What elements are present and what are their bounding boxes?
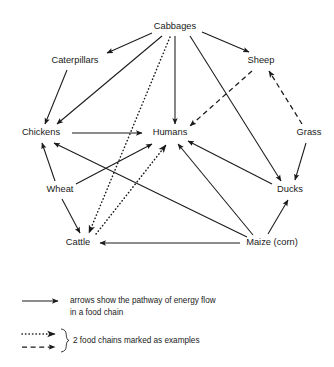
legend-solid-text-line2: in a food chain	[70, 308, 124, 317]
food-web-canvas: Cabbages Caterpillars Sheep Chickens Hum…	[0, 0, 334, 367]
node-caterpillars[interactable]: Caterpillars	[51, 55, 98, 65]
node-wheat[interactable]: Wheat	[47, 184, 74, 194]
edge-caterpillars-chickens	[45, 70, 67, 124]
node-chickens[interactable]: Chickens	[22, 127, 61, 137]
edge-cabbages-sheep	[202, 32, 249, 52]
edge-sheep-humans-dashed	[190, 71, 252, 126]
legend: arrows show the pathway of energy flow i…	[22, 296, 216, 352]
edge-grass-ducks	[295, 143, 306, 180]
legend-brace-icon	[61, 329, 69, 352]
edge-wheat-chickens	[42, 143, 55, 181]
legend-solid-text-line1: arrows show the pathway of energy flow	[70, 296, 216, 305]
edge-wheat-cattle	[62, 199, 80, 233]
legend-chains-text: 2 food chains marked as examples	[73, 336, 200, 345]
node-cattle[interactable]: Cattle	[66, 237, 90, 247]
food-web-diagram: Cabbages Caterpillars Sheep Chickens Hum…	[0, 0, 334, 367]
edge-grass-sheep-dashed	[269, 71, 302, 124]
node-maize[interactable]: Maize (corn)	[246, 237, 298, 247]
edge-maize-chickens	[54, 143, 247, 237]
edge-maize-ducks	[268, 200, 288, 234]
edge-cabbages-chickens	[57, 36, 162, 124]
edge-wheat-humans	[76, 144, 152, 184]
node-sheep[interactable]: Sheep	[248, 55, 275, 65]
node-grass[interactable]: Grass	[297, 127, 322, 137]
node-humans[interactable]: Humans	[153, 127, 188, 137]
node-ducks[interactable]: Ducks	[277, 184, 303, 194]
node-layer: Cabbages Caterpillars Sheep Chickens Hum…	[22, 21, 322, 247]
node-cabbages[interactable]: Cabbages	[154, 21, 197, 31]
